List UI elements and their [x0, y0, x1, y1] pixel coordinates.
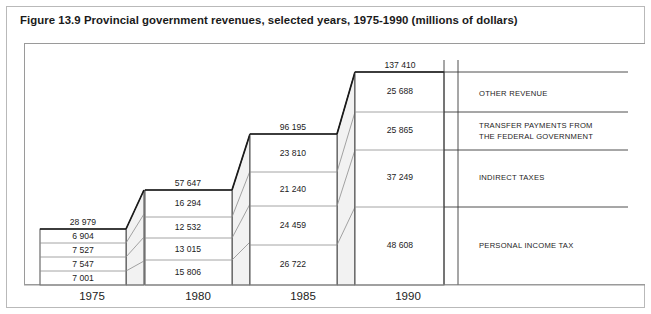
column-1980-total-label: 57 647: [175, 178, 202, 188]
column-1990-personal-income-tax-value: 48 608: [387, 240, 414, 250]
x-axis: 1975 1980 1985 1990: [24, 285, 645, 302]
column-1980-personal-income-tax-value: 15 806: [175, 267, 202, 277]
column-1985-indirect-taxes-value: 24 459: [280, 220, 307, 230]
figure-container: Figure 13.9 Provincial government revenu…: [0, 0, 651, 314]
column-1975-side-panel: [126, 190, 144, 285]
legend-label-other-revenue: OTHER REVENUE: [479, 89, 548, 98]
column-1985-transfer-payments-value: 21 240: [280, 184, 307, 194]
x-axis-label-1980: 1980: [185, 290, 211, 302]
x-axis-label-1975: 1975: [79, 290, 105, 302]
legend-label-indirect-taxes: INDIRECT TAXES: [479, 173, 545, 182]
x-axis-label-1990: 1990: [395, 290, 421, 302]
column-1990-indirect-taxes-value: 37 249: [387, 172, 414, 182]
column-1985-total-label: 96 195: [280, 122, 307, 132]
column-1990-total-label: 137 410: [384, 60, 415, 70]
column-1980-indirect-taxes-value: 13 015: [175, 244, 202, 254]
column-1990-transfer-payments-value: 25 865: [387, 125, 414, 135]
column-1980-other-revenue-value: 16 294: [175, 198, 202, 208]
legend-label-transfer-payments-line2: THE FEDERAL GOVERNMENT: [479, 132, 593, 141]
column-1975-other-revenue-value: 6 904: [72, 231, 94, 241]
legend-label-transfer-payments-line1: TRANSFER PAYMENTS FROM: [479, 121, 593, 130]
column-1975-transfer-payments-value: 7 527: [72, 245, 94, 255]
column-1980-transfer-payments-value: 12 532: [175, 222, 202, 232]
column-1985-other-revenue-value: 23 810: [280, 148, 307, 158]
x-axis-label-1985: 1985: [290, 290, 316, 302]
column-1990-other-revenue-value: 25 688: [387, 86, 414, 96]
column-1975-personal-income-tax-value: 7 001: [72, 273, 94, 283]
column-1975-total-label: 28 979: [70, 217, 97, 227]
legend-label-personal-income-tax: PERSONAL INCOME TAX: [479, 241, 574, 250]
legend-panel: OTHER REVENUE TRANSFER PAYMENTS FROM THE…: [444, 60, 628, 285]
column-1980[interactable]: 57 647 16 294 12 532 13 015 15 806: [145, 134, 250, 285]
column-1975-indirect-taxes-value: 7 547: [72, 259, 94, 269]
stacked-column-chart: 28 979 6 904 7 527 7 547 7 001 57 647 16…: [0, 0, 651, 314]
column-1985[interactable]: 96 195 23 810 21 240 24 459 26 722: [250, 72, 355, 285]
column-1975[interactable]: 28 979 6 904 7 527 7 547 7 001: [40, 190, 144, 285]
column-1985-personal-income-tax-value: 26 722: [280, 259, 307, 269]
column-1990[interactable]: 137 410 25 688 25 865 37 249 48 608: [355, 60, 444, 285]
